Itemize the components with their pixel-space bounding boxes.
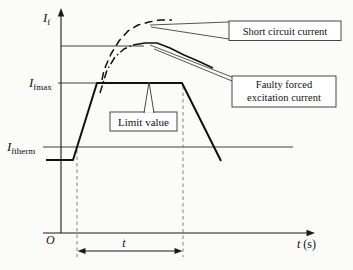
ifmax-label: Ifmax <box>28 75 52 92</box>
faulty-callout-line-upper <box>150 45 232 77</box>
t-interval-label: t <box>122 236 126 250</box>
excitation-current-diagram: Short circuit current Faulty forced exci… <box>0 0 353 270</box>
faulty-forced-excitation-fall-curve <box>133 43 213 68</box>
x-axis-label: t (s) <box>297 237 316 251</box>
faulty-label-line1: Faulty forced <box>256 79 313 90</box>
faulty-callout-line-lower <box>154 49 232 81</box>
y-axis-label: If <box>42 10 50 27</box>
limit-value-label: Limit value <box>118 116 169 128</box>
faulty-label-line2: excitation current <box>247 92 321 103</box>
short-circuit-label: Short circuit current <box>243 26 328 37</box>
iftherm-label: Iftherm <box>6 139 35 156</box>
t-interval-right-arrow-icon <box>175 248 183 254</box>
x-axis-arrow-icon <box>307 230 316 236</box>
t-interval-left-arrow-icon <box>78 248 86 254</box>
limit-flag-pointer <box>145 84 154 113</box>
short-circuit-callout-line-lower <box>151 27 229 39</box>
short-circuit-callout-line-upper <box>150 22 229 25</box>
origin-label: O <box>46 233 55 247</box>
y-axis-arrow-icon <box>58 8 64 17</box>
faulty-forced-excitation-rise-curve <box>100 45 133 93</box>
